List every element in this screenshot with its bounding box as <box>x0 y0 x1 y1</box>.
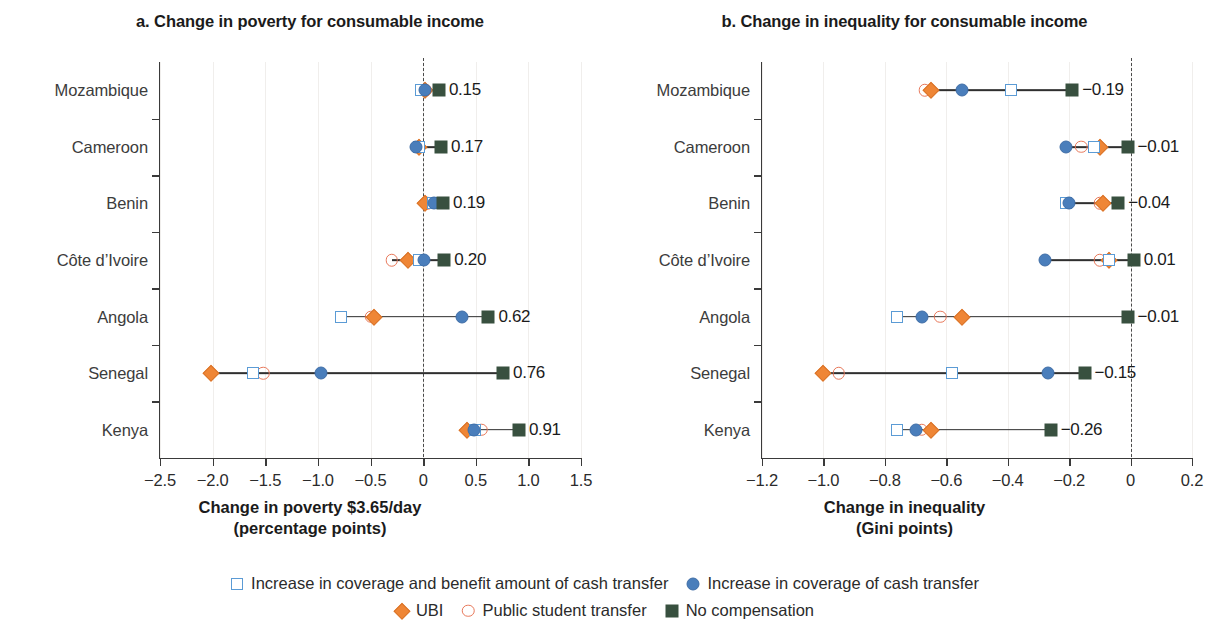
x-axis-tick-label: −1.0 <box>302 471 334 490</box>
panel-a-axis-title-line2: (percentage points) <box>0 518 620 539</box>
connector-line <box>1045 259 1134 261</box>
legend-item-increase-coverage[interactable]: Increase in coverage of cash transfer <box>686 574 978 593</box>
marker-filled-square-icon <box>1121 140 1134 153</box>
y-axis-tick <box>754 345 761 346</box>
value-label: 0.20 <box>454 250 486 270</box>
x-axis-tick-label: −2.0 <box>197 471 229 490</box>
legend-row-2: UBIPublic student transferNo compensatio… <box>0 597 1209 624</box>
category-label-cameroon: Cameroon <box>674 137 750 156</box>
legend: Increase in coverage and benefit amount … <box>0 570 1209 624</box>
marker-filled-circle-icon <box>1041 367 1054 380</box>
panel-b-axis-title-line1: Change in inequality <box>600 497 1209 518</box>
gridline <box>823 62 824 458</box>
panel-b-title: b. Change in inequality for consumable i… <box>600 12 1209 31</box>
y-axis-line <box>159 62 160 458</box>
panel-a-axis-title: Change in poverty $3.65/day (percentage … <box>0 497 620 539</box>
category-label-benin: Benin <box>708 194 750 213</box>
marker-diamond-icon <box>954 308 970 324</box>
marker-filled-square-icon <box>482 310 495 323</box>
x-axis-tick <box>1008 458 1009 466</box>
gridline <box>371 62 372 458</box>
connector-line <box>925 89 1072 91</box>
panel-a: a. Change in poverty for consumable inco… <box>0 0 620 560</box>
legend-item-public-student-transfer[interactable]: Public student transfer <box>461 601 646 620</box>
figure-root: a. Change in poverty for consumable inco… <box>0 0 1209 629</box>
x-axis-tick <box>885 458 886 466</box>
x-axis-tick-label: 0.5 <box>465 471 487 490</box>
y-axis-tick <box>754 175 761 176</box>
x-axis-tick-label: 0 <box>1126 471 1135 490</box>
marker-filled-circle-icon <box>467 423 480 436</box>
legend-label: Increase in coverage and benefit amount … <box>251 574 668 593</box>
marker-filled-square-icon <box>435 140 448 153</box>
x-axis-tick <box>528 458 529 466</box>
marker-filled-circle-icon <box>955 84 968 97</box>
legend-item-no-compensation[interactable]: No compensation <box>665 601 814 620</box>
marker-filled-square-icon <box>512 423 525 436</box>
marker-diamond-icon <box>395 604 409 618</box>
marker-filled-circle-icon <box>315 367 328 380</box>
category-label-benin: Benin <box>106 194 148 213</box>
x-axis-tick <box>476 458 477 466</box>
x-axis-line <box>761 458 1193 459</box>
value-label: −0.04 <box>1128 193 1170 213</box>
panel-a-plot-area: −2.5−2.0−1.5−1.0−0.500.51.01.50.150.170.… <box>160 62 581 458</box>
marker-filled-circle-icon <box>1038 254 1051 267</box>
x-axis-tick <box>1131 458 1132 466</box>
marker-filled-circle-icon <box>686 577 700 591</box>
marker-open-circle-icon <box>257 367 270 380</box>
category-label-angola: Angola <box>699 307 750 326</box>
x-axis-tick <box>213 458 214 466</box>
legend-item-ubi[interactable]: UBI <box>395 601 444 620</box>
x-axis-tick-label: −2.5 <box>144 471 176 490</box>
marker-diamond-icon <box>815 365 831 381</box>
category-label-senegal: Senegal <box>88 364 148 383</box>
legend-label: UBI <box>416 601 444 620</box>
category-label-c-te-d-ivoire: Côte d’Ivoire <box>57 251 148 270</box>
gridline <box>581 62 582 458</box>
marker-filled-square-icon <box>1078 367 1091 380</box>
y-axis-tick <box>754 232 761 233</box>
x-axis-tick <box>1069 458 1070 466</box>
marker-filled-square-icon <box>497 367 510 380</box>
panel-a-axis-title-line1: Change in poverty $3.65/day <box>0 497 620 518</box>
panel-a-title: a. Change in poverty for consumable inco… <box>0 12 620 31</box>
y-axis-line <box>761 62 762 458</box>
marker-open-square-icon <box>946 367 958 379</box>
value-label: −0.26 <box>1061 420 1103 440</box>
marker-filled-circle-icon <box>418 254 431 267</box>
category-label-c-te-d-ivoire: Côte d’Ivoire <box>659 251 750 270</box>
x-axis-tick <box>1192 458 1193 466</box>
legend-label: Increase in coverage of cash transfer <box>707 574 978 593</box>
legend-item-increase-coverage-benefit[interactable]: Increase in coverage and benefit amount … <box>230 574 668 593</box>
y-axis-tick <box>152 401 159 402</box>
x-axis-tick-label: 1.0 <box>517 471 539 490</box>
y-axis-tick <box>152 345 159 346</box>
marker-filled-square-icon <box>438 254 451 267</box>
marker-filled-square-icon <box>1112 197 1125 210</box>
value-label: 0.17 <box>451 137 483 157</box>
category-label-kenya: Kenya <box>704 420 750 439</box>
value-label: 0.15 <box>449 80 481 100</box>
x-axis-tick-label: −0.8 <box>869 471 901 490</box>
x-axis-tick <box>371 458 372 466</box>
marker-open-circle-icon <box>385 254 398 267</box>
x-axis-tick <box>265 458 266 466</box>
marker-open-square-icon <box>1103 254 1115 266</box>
marker-filled-square-icon <box>1044 423 1057 436</box>
value-label: −0.15 <box>1095 363 1137 383</box>
y-axis-tick <box>754 119 761 120</box>
gridline <box>213 62 214 458</box>
panel-b-plot-area: −1.2−1.0−0.8−0.6−0.4−0.200.2−0.19−0.01−0… <box>762 62 1192 458</box>
marker-filled-square-icon <box>1066 84 1079 97</box>
value-label: −0.01 <box>1138 307 1180 327</box>
marker-open-square-icon <box>335 311 347 323</box>
gridline <box>318 62 319 458</box>
marker-open-circle-icon <box>461 604 475 618</box>
x-axis-tick <box>581 458 582 466</box>
value-label: −0.01 <box>1138 137 1180 157</box>
category-label-senegal: Senegal <box>690 364 750 383</box>
x-axis-tick-label: 0 <box>419 471 428 490</box>
y-axis-tick <box>754 401 761 402</box>
value-label: 0.91 <box>529 420 561 440</box>
